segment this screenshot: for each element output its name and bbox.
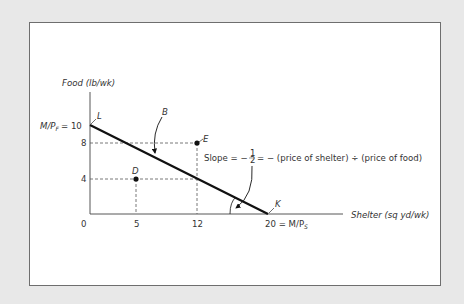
guide-lines: [90, 143, 197, 214]
x-axis-label: Shelter (sq yd/wk): [351, 210, 429, 220]
budget-constraint-diagram: Food (lb/wk) Shelter (sq yd/wk) M/PF= 10…: [0, 0, 464, 304]
point-d: [133, 176, 138, 181]
y-axis-label: Food (lb/wk): [62, 78, 115, 88]
label-e: E: [203, 134, 209, 144]
slope-prefix: Slope = −: [204, 153, 248, 163]
label-d: D: [132, 166, 139, 176]
x-tick-12: 12: [192, 219, 203, 229]
slope-angle-arc: [230, 197, 236, 214]
point-e: [194, 140, 199, 145]
label-b: B: [162, 107, 168, 117]
y-intercept-label: M/PF= 10: [40, 121, 82, 132]
x-tick-5: 5: [134, 219, 139, 229]
budget-line-b: [90, 125, 268, 214]
y-tick-4: 4: [81, 174, 86, 184]
y-tick-8: 8: [81, 138, 86, 148]
slope-fraction-den: 2: [250, 155, 255, 165]
l-leader: [91, 119, 96, 124]
k-leader: [269, 208, 274, 213]
slope-suffix: = − (price of shelter) ÷ (price of food): [257, 153, 422, 163]
label-l: L: [97, 111, 102, 121]
label-k: K: [275, 199, 282, 209]
slope-annotation: Slope = − 1 2 = − (price of shelter) ÷ (…: [204, 148, 422, 165]
origin-label: 0: [81, 219, 86, 229]
b-pointer-arrow: [154, 117, 162, 153]
x-intercept-label: 20 = M/PS: [265, 219, 308, 230]
